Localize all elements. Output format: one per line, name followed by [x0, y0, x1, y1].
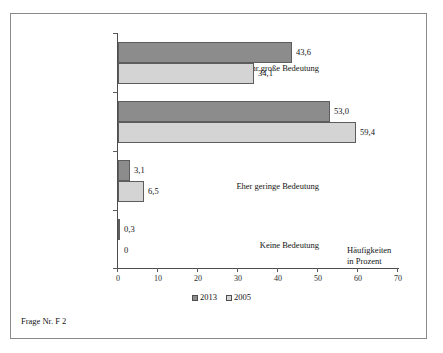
category-label-keine-bedeutung: Keine Bedeutung — [260, 240, 319, 251]
value-axis-tick-label: 20 — [194, 274, 202, 284]
value-axis-tick — [117, 268, 118, 272]
value-axis-tick — [397, 268, 398, 272]
value-axis-tick — [317, 268, 318, 272]
chart-figure: 0 10 20 30 40 50 60 70 Sehr große Bedeut… — [0, 0, 443, 353]
category-label-sehr-grosse-bedeutung: Sehr große Bedeutung — [243, 63, 319, 74]
plot-area: 0 10 20 30 40 50 60 70 Sehr große Bedeut… — [0, 0, 443, 353]
value-axis-title: Häufigkeiten in Prozent — [347, 245, 391, 266]
value-axis-tick — [277, 268, 278, 272]
value-axis-tick-label: 30 — [234, 274, 242, 284]
bar-2013-eher-grosse-bedeutung — [118, 101, 330, 122]
category-axis-tick — [113, 92, 118, 93]
value-axis-tick — [357, 268, 358, 272]
bar-2005-sehr-grosse-bedeutung — [118, 63, 254, 84]
category-axis-tick — [113, 33, 118, 34]
value-axis-tick-label: 70 — [394, 274, 402, 284]
value-axis-tick — [157, 268, 158, 272]
category-axis-tick — [113, 210, 118, 211]
value-axis-tick — [197, 268, 198, 272]
value-axis-tick-label: 10 — [154, 274, 162, 284]
bar-value-2013-keine-bedeutung: 0,3 — [124, 224, 135, 234]
legend-label-2013: 2013 — [200, 292, 217, 303]
bar-2005-eher-geringe-bedeutung — [118, 181, 144, 202]
value-axis-tick-label: 40 — [274, 274, 282, 284]
bar-2013-keine-bedeutung — [118, 219, 120, 240]
figure-footnote: Frage Nr. F 2 — [21, 316, 66, 327]
bar-value-2013-eher-grosse-bedeutung: 53,0 — [334, 106, 349, 116]
value-axis-tick-label: 60 — [354, 274, 362, 284]
value-axis-tick — [237, 268, 238, 272]
legend-swatch-icon-2005 — [226, 295, 232, 301]
legend-label-2005: 2005 — [234, 292, 251, 303]
bar-value-2013-sehr-grosse-bedeutung: 43,6 — [296, 47, 311, 57]
legend-item-2005: 2005 — [226, 292, 251, 303]
bar-2013-eher-geringe-bedeutung — [118, 160, 130, 181]
value-axis-title-line-2: in Prozent — [347, 256, 391, 267]
bar-2013-sehr-grosse-bedeutung — [118, 42, 292, 63]
bar-value-2005-eher-grosse-bedeutung: 59,4 — [360, 127, 375, 137]
category-axis-tick — [113, 151, 118, 152]
legend-swatch-icon-2013 — [192, 295, 198, 301]
bar-2005-eher-grosse-bedeutung — [118, 122, 356, 143]
value-axis-title-line-1: Häufigkeiten — [347, 245, 391, 256]
bar-value-2005-sehr-grosse-bedeutung: 34,1 — [258, 68, 273, 78]
value-axis-tick-label: 50 — [314, 274, 322, 284]
bar-value-2013-eher-geringe-bedeutung: 3,1 — [134, 165, 145, 175]
legend-item-2013: 2013 — [192, 292, 217, 303]
value-axis-tick-label: 0 — [116, 274, 120, 284]
bar-value-2005-keine-bedeutung: 0 — [124, 245, 128, 255]
bar-value-2005-eher-geringe-bedeutung: 6,5 — [148, 186, 159, 196]
category-label-eher-geringe-bedeutung: Eher geringe Bedeutung — [236, 181, 319, 192]
chart-legend: 2013 2005 — [0, 292, 443, 303]
